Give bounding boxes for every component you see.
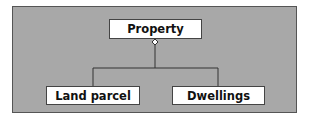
node-land-parcel: Land parcel xyxy=(46,86,140,105)
node-dwellings: Dwellings xyxy=(172,86,265,105)
node-dwellings-label: Dwellings xyxy=(187,89,250,103)
aggregation-diamond-icon xyxy=(152,39,158,45)
node-property: Property xyxy=(109,19,202,39)
node-land-parcel-label: Land parcel xyxy=(55,89,131,103)
node-property-label: Property xyxy=(127,22,184,36)
